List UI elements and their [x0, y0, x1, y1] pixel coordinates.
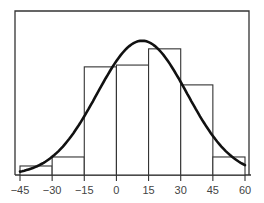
x-tick-label: −45: [11, 184, 30, 196]
x-tick-label: 15: [142, 184, 154, 196]
x-tick-label: 60: [239, 184, 251, 196]
x-tick-label: −30: [43, 184, 62, 196]
x-axis-ticks: [20, 175, 245, 181]
x-tick-label: 0: [113, 184, 119, 196]
histogram-bar: [52, 157, 84, 175]
x-axis-labels: −45−30−15015304560: [11, 184, 251, 196]
histogram-bar: [116, 65, 148, 175]
x-tick-label: −15: [75, 184, 94, 196]
x-tick-label: 30: [175, 184, 187, 196]
histogram-bar: [149, 49, 181, 175]
histogram-bar: [213, 157, 245, 175]
x-tick-label: 45: [207, 184, 219, 196]
histogram-bar: [84, 67, 116, 175]
histogram-chart: −45−30−15015304560: [0, 0, 264, 203]
